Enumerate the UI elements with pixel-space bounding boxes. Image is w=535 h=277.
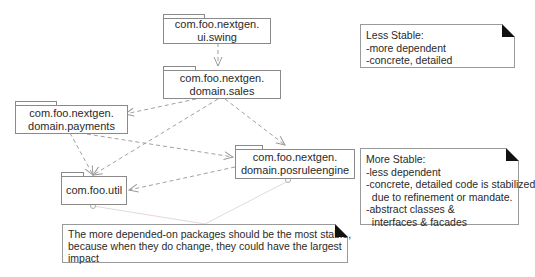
package-name-line1: com.foo.util — [66, 184, 122, 197]
package-name-line1: com.foo.nextgen. — [253, 151, 337, 164]
anchor-util-note — [93, 206, 205, 224]
note-line: due to refinement or mandate. — [366, 191, 513, 204]
note-line: More Stable: — [366, 153, 513, 166]
package-domain-posruleengine[interactable]: com.foo.nextgen. domain.posruleengine — [235, 149, 355, 179]
note-stability-principle[interactable]: The more depended-on packages should be … — [62, 224, 348, 263]
package-body: com.foo.nextgen. ui.swing — [163, 18, 271, 44]
package-name-line1: com.foo.nextgen. — [180, 72, 264, 85]
note-line: Less Stable: — [366, 29, 509, 42]
package-body: com.foo.util — [61, 176, 127, 205]
note-line: The more depended-on packages should be … — [68, 228, 342, 240]
package-domain-payments[interactable]: com.foo.nextgen. domain.payments — [15, 105, 128, 134]
note-fold-corner — [335, 224, 348, 237]
package-domain-sales[interactable]: com.foo.nextgen. domain.sales — [163, 70, 281, 99]
package-body: com.foo.nextgen. domain.posruleengine — [235, 149, 355, 179]
note-more-stable[interactable]: More Stable: -less dependent -concrete, … — [360, 148, 519, 225]
anchor-posrule-note — [205, 181, 288, 224]
dep-payments-util — [70, 133, 93, 175]
dep-sales-payments — [125, 99, 196, 114]
dep-sales-posrule — [225, 99, 285, 145]
note-line: -concrete, detailed code is stabilized — [366, 178, 513, 191]
note-line: -less dependent — [366, 166, 513, 179]
package-util[interactable]: com.foo.util — [61, 176, 127, 205]
note-line: impact — [68, 252, 342, 264]
package-body: com.foo.nextgen. domain.payments — [15, 105, 128, 134]
package-name-line2: domain.sales — [190, 85, 255, 98]
note-less-stable[interactable]: Less Stable: -more dependent -concrete, … — [360, 24, 515, 68]
note-line: -concrete, detailed — [366, 54, 509, 67]
package-ui-swing[interactable]: com.foo.nextgen. ui.swing — [163, 18, 271, 44]
package-name-line1: com.foo.nextgen. — [175, 18, 259, 31]
note-line: because when they do change, they could … — [68, 240, 342, 252]
note-fold-corner — [502, 24, 515, 37]
dep-posrule-util — [129, 167, 235, 190]
note-line: -abstract classes & — [366, 203, 513, 216]
note-line: interfaces & facades — [366, 216, 513, 229]
note-fold-corner — [506, 148, 519, 161]
package-name-line2: domain.posruleengine — [241, 164, 349, 177]
package-name-line1: com.foo.nextgen. — [29, 107, 113, 120]
package-name-line2: domain.payments — [28, 120, 115, 133]
package-name-line2: ui.swing — [197, 31, 237, 44]
note-line: -more dependent — [366, 42, 509, 55]
package-body: com.foo.nextgen. domain.sales — [163, 70, 281, 99]
